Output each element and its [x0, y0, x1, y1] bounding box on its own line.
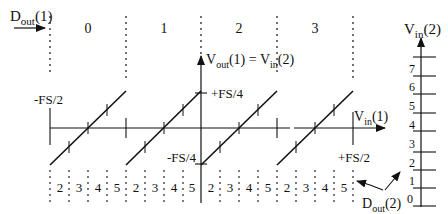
svg-text:2: 2 — [208, 180, 215, 195]
bottom-codes: 2 3 4 5 2 3 4 5 2 3 4 5 2 3 4 5 — [57, 180, 348, 195]
label-minus-fs4: -FS/4 — [167, 150, 196, 165]
dout2-label: Dout(2) — [362, 196, 402, 214]
dout1-label: Dout(1) — [10, 8, 52, 27]
svg-text:3: 3 — [152, 180, 159, 195]
svg-text:2: 2 — [409, 156, 415, 170]
dout2-arrow-left-icon — [357, 181, 383, 190]
right-scale-label: Vin(2) — [404, 21, 441, 40]
svg-text:5: 5 — [265, 180, 272, 195]
code-3: 3 — [312, 21, 319, 36]
svg-text:2: 2 — [133, 180, 140, 195]
svg-text:3: 3 — [303, 180, 310, 195]
right-scale-values: 0 1 2 3 4 5 6 7 — [407, 62, 415, 206]
dout2-arrow-up-icon — [385, 172, 400, 190]
svg-text:3: 3 — [409, 137, 415, 151]
svg-text:4: 4 — [409, 118, 415, 132]
horizontal-axis-label: Vin(1) — [354, 109, 389, 127]
svg-text:3: 3 — [227, 180, 234, 195]
svg-text:7: 7 — [409, 62, 415, 76]
svg-text:2: 2 — [284, 180, 291, 195]
svg-text:6: 6 — [409, 80, 415, 94]
svg-text:0: 0 — [407, 192, 413, 206]
code-2: 2 — [236, 21, 243, 36]
code-0: 0 — [85, 21, 92, 36]
svg-text:3: 3 — [76, 180, 83, 195]
label-plus-fs2: +FS/2 — [338, 150, 370, 165]
vertical-axis-label: Vout(1) = Vin(2) — [206, 52, 294, 70]
right-scale-ticks — [413, 57, 436, 206]
svg-text:4: 4 — [95, 180, 102, 195]
svg-text:5: 5 — [409, 99, 415, 113]
svg-text:5: 5 — [341, 180, 348, 195]
label-minus-fs2: -FS/2 — [34, 92, 63, 107]
svg-text:4: 4 — [322, 180, 329, 195]
adc-residue-diagram: Dout(1) 0 1 2 3 Vout(1) = Vin(2) Vin(1) … — [0, 0, 448, 214]
svg-text:2: 2 — [57, 180, 64, 195]
svg-text:5: 5 — [114, 180, 121, 195]
label-plus-fs4: +FS/4 — [211, 86, 243, 101]
code-1: 1 — [161, 21, 168, 36]
svg-text:4: 4 — [246, 180, 253, 195]
svg-text:1: 1 — [409, 174, 415, 188]
svg-text:4: 4 — [171, 180, 178, 195]
svg-text:Dout(1): Dout(1) — [10, 8, 52, 27]
svg-text:5: 5 — [189, 180, 196, 195]
